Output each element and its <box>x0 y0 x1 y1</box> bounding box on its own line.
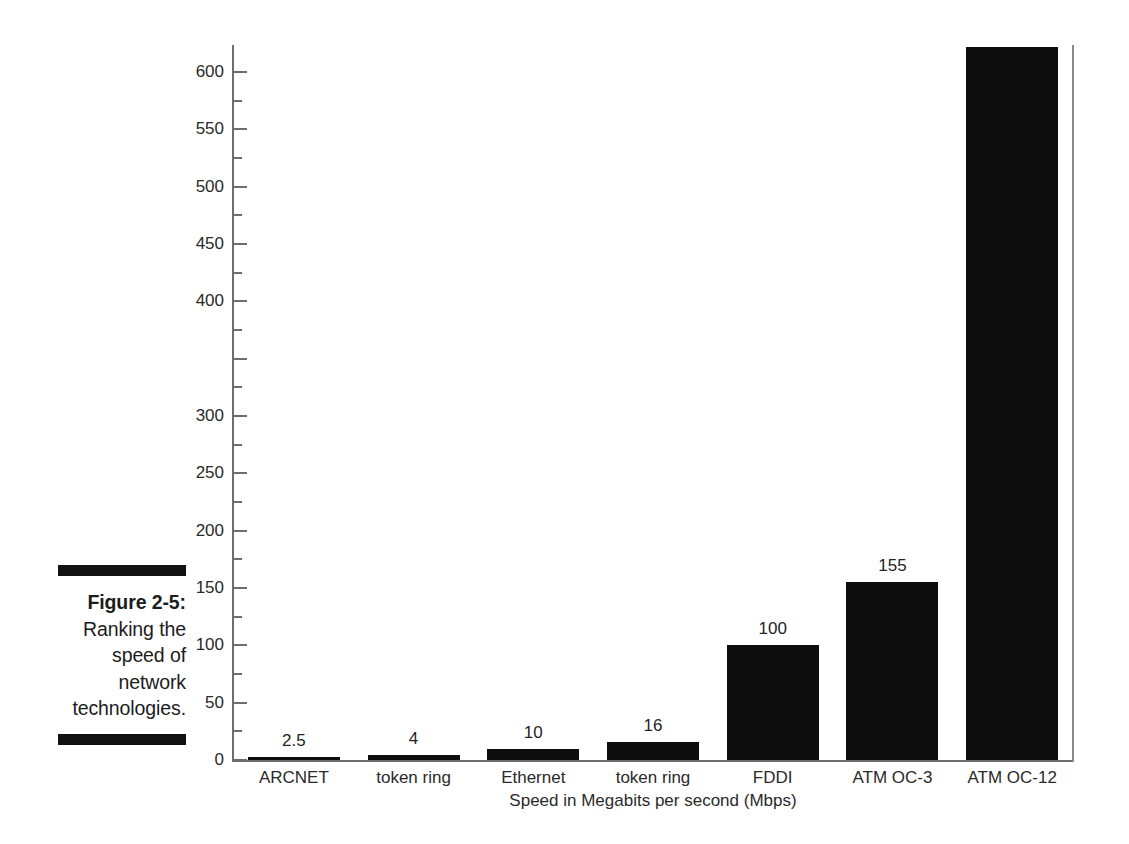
y-tick-label: 200 <box>178 521 224 541</box>
x-category-label: token ring <box>354 768 474 788</box>
bar-value-label: 16 <box>607 716 699 736</box>
bar[interactable] <box>248 757 340 760</box>
bar-group[interactable]: 16 <box>607 45 699 760</box>
bar[interactable] <box>846 582 938 760</box>
x-category-label: Ethernet <box>473 768 593 788</box>
bar-group[interactable]: 4 <box>368 45 460 760</box>
x-category-label: FDDI <box>713 768 833 788</box>
y-tick-label: 600 <box>178 62 224 82</box>
x-axis-title: Speed in Megabits per second (Mbps) <box>232 791 1074 811</box>
y-tick-label: 150 <box>178 578 224 598</box>
y-tick-label: 50 <box>178 693 224 713</box>
y-tick-label: 450 <box>178 234 224 254</box>
bar-group[interactable]: 10 <box>487 45 579 760</box>
bar-group[interactable] <box>966 45 1058 760</box>
y-tick-label: 300 <box>178 406 224 426</box>
bar[interactable] <box>607 742 699 760</box>
bar[interactable] <box>487 749 579 760</box>
bar-value-label: 2.5 <box>248 731 340 751</box>
bar-group[interactable]: 100 <box>727 45 819 760</box>
bars-layer: 2.541016100155 <box>234 45 1072 760</box>
bar-group[interactable]: 155 <box>846 45 938 760</box>
x-category-label: ATM OC-3 <box>833 768 953 788</box>
bar-chart: 050100150200250300400450500550600 2.5410… <box>0 0 1129 844</box>
bar[interactable] <box>727 645 819 760</box>
bar[interactable] <box>966 47 1058 760</box>
bar[interactable] <box>368 755 460 760</box>
x-category-label: ATM OC-12 <box>952 768 1072 788</box>
bar-value-label: 100 <box>727 619 819 639</box>
bar-value-label: 10 <box>487 723 579 743</box>
bar-group[interactable]: 2.5 <box>248 45 340 760</box>
y-tick-label: 250 <box>178 463 224 483</box>
plot-right-border <box>1072 45 1074 762</box>
y-tick-label: 0 <box>178 750 224 770</box>
y-tick-label: 550 <box>178 119 224 139</box>
y-tick-label: 500 <box>178 177 224 197</box>
bar-value-label: 4 <box>368 729 460 749</box>
y-tick-label: 100 <box>178 635 224 655</box>
x-axis-line <box>232 760 1074 762</box>
bar-value-label: 155 <box>846 556 938 576</box>
x-category-label: ARCNET <box>234 768 354 788</box>
x-category-label: token ring <box>593 768 713 788</box>
y-tick-label: 400 <box>178 291 224 311</box>
